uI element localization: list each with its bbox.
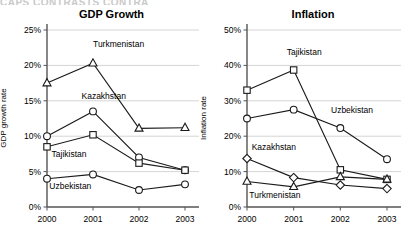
data-point-tajikistan-2000 bbox=[44, 144, 50, 150]
data-point-uzbekistan-2003 bbox=[182, 181, 189, 188]
x-tick-label: 2000 bbox=[238, 214, 257, 224]
data-point-tajikistan-2003 bbox=[182, 167, 188, 173]
series-label-turkmenistan: Turkmenistan bbox=[93, 39, 144, 49]
gdp-growth-panel: GDP Growth GDP growth rate 0%5%10%15%20%… bbox=[0, 0, 205, 241]
y-tick-label: 5% bbox=[29, 167, 42, 177]
data-point-uzbekistan-2002 bbox=[337, 125, 344, 132]
series-label-tajikistan: Tajikistan bbox=[287, 47, 322, 57]
y-tick-label: 15% bbox=[24, 96, 41, 106]
data-point-kazakhstan-2001 bbox=[90, 108, 97, 115]
series-label-turkmenistan: Turkmenistan bbox=[249, 190, 300, 200]
gdp-plot-svg: 0%5%10%15%20%25%2000200120022003Turkmeni… bbox=[0, 0, 205, 241]
x-tick-label: 2003 bbox=[176, 214, 195, 224]
series-label-kazakhstan: Kazakhstan bbox=[252, 142, 297, 152]
inflation-panel: Inflation Inflation rate 0%10%20%30%40%5… bbox=[205, 0, 411, 241]
series-line-kazakhstan bbox=[47, 111, 185, 170]
y-tick-label: 0% bbox=[229, 202, 242, 212]
data-point-turkmenistan-2003 bbox=[181, 123, 189, 130]
y-tick-label: 20% bbox=[224, 131, 241, 141]
data-point-tajikistan-2001 bbox=[290, 67, 296, 73]
data-point-uzbekistan-2001 bbox=[90, 171, 97, 178]
y-tick-label: 10% bbox=[24, 131, 41, 141]
data-point-uzbekistan-2003 bbox=[384, 156, 391, 163]
data-point-uzbekistan-2000 bbox=[244, 115, 251, 122]
data-point-uzbekistan-2002 bbox=[136, 187, 143, 194]
data-point-tajikistan-2002 bbox=[136, 160, 142, 166]
x-tick-label: 2001 bbox=[84, 214, 103, 224]
data-point-turkmenistan-2000 bbox=[243, 177, 251, 184]
y-tick-label: 0% bbox=[29, 202, 42, 212]
inflation-plot-svg: 0%10%20%30%40%50%2000200120022003Tajikis… bbox=[205, 0, 411, 241]
y-tick-label: 25% bbox=[24, 25, 41, 35]
series-label-uzbekistan: Uzbekistan bbox=[49, 181, 91, 191]
data-point-kazakhstan-2002 bbox=[336, 181, 344, 189]
series-label-kazakhstan: Kazakhstan bbox=[82, 91, 127, 101]
series-label-tajikistan: Tajikistan bbox=[52, 149, 87, 159]
data-point-tajikistan-2001 bbox=[90, 132, 96, 138]
x-tick-label: 2003 bbox=[378, 214, 397, 224]
y-tick-label: 50% bbox=[224, 25, 241, 35]
series-line-turkmenistan bbox=[247, 177, 387, 187]
series-label-uzbekistan: Uzbekistan bbox=[331, 105, 373, 115]
x-tick-label: 2002 bbox=[331, 214, 350, 224]
data-point-turkmenistan-2001 bbox=[89, 59, 97, 66]
data-point-tajikistan-2000 bbox=[244, 87, 250, 93]
y-tick-label: 10% bbox=[224, 167, 241, 177]
x-tick-label: 2001 bbox=[284, 214, 303, 224]
x-tick-label: 2002 bbox=[130, 214, 149, 224]
data-point-kazakhstan-2001 bbox=[289, 173, 297, 181]
data-point-kazakhstan-2000 bbox=[243, 154, 251, 162]
x-tick-label: 2000 bbox=[38, 214, 57, 224]
y-tick-label: 20% bbox=[24, 60, 41, 70]
dual-chart-figure: CAPS CONTRASTS CONTRA GDP Growth GDP gro… bbox=[0, 0, 411, 241]
data-point-kazakhstan-2003 bbox=[383, 184, 391, 192]
data-point-uzbekistan-2001 bbox=[290, 106, 297, 113]
series-line-tajikistan bbox=[247, 70, 387, 179]
data-point-kazakhstan-2000 bbox=[44, 133, 51, 140]
y-tick-label: 30% bbox=[224, 96, 241, 106]
y-tick-label: 40% bbox=[224, 60, 241, 70]
